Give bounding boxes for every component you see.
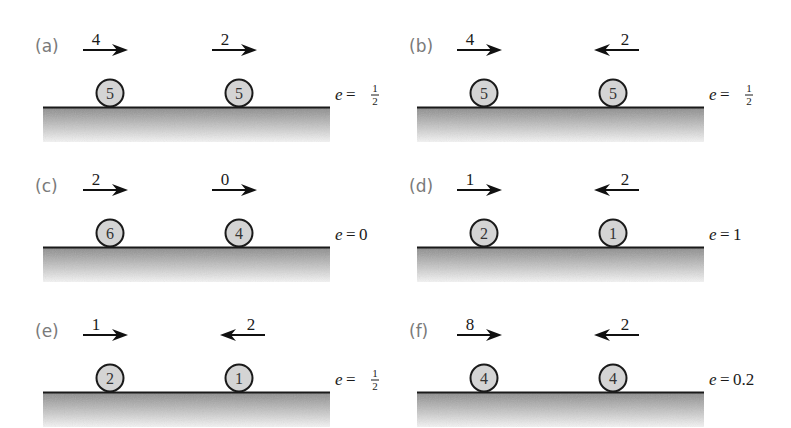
sphere: 6 [97,220,124,247]
panel-b: (b)5452e = 12 [409,30,753,142]
restitution-value: 0.2 [733,370,754,389]
restitution-denominator: 2 [372,95,378,107]
restitution-value: 0 [359,225,368,244]
arrow-right-icon [83,184,128,196]
sphere: 4 [226,220,253,247]
sphere-mass: 5 [609,85,617,102]
sphere: 2 [471,220,498,247]
restitution-coefficient: e = 12 [709,82,753,107]
panel-a: (a)5452e = 12 [35,30,379,142]
sphere-speed: 2 [621,315,630,334]
arrow-left-icon [594,44,639,56]
restitution-denominator: 2 [372,380,378,392]
ground-surface [417,107,704,142]
restitution-value: 1 [733,225,742,244]
panel-label: (d) [409,176,433,196]
sphere-speed: 2 [247,315,256,334]
sphere-mass: 1 [609,225,617,242]
ground-surface [43,107,330,142]
restitution-coefficient: e = 12 [335,367,379,392]
sphere: 5 [471,80,498,107]
sphere-speed: 0 [221,170,230,189]
sphere: 1 [600,220,627,247]
arrow-right-icon [83,44,128,56]
sphere-speed: 4 [466,30,475,49]
sphere: 5 [600,80,627,107]
sphere-speed: 1 [92,315,101,334]
collision-diagram: (a)5452e = 12(b)5452e = 12(c)6240e = 0(d… [0,0,791,428]
svg-text:e =: e = [335,85,359,104]
ground-surface [417,392,704,427]
arrow-right-icon [83,329,128,341]
svg-text:e = 1: e = 1 [709,225,741,244]
panel-label: (c) [35,176,58,196]
sphere-speed: 4 [92,30,101,49]
sphere: 4 [600,365,627,392]
sphere: 2 [97,365,124,392]
restitution-denominator: 2 [746,95,752,107]
panel-label: (b) [409,36,433,56]
panel-e: (e)2112e = 12 [35,315,379,427]
sphere-speed: 2 [621,30,630,49]
sphere-mass: 5 [235,85,243,102]
sphere-speed: 1 [466,170,475,189]
sphere: 5 [97,80,124,107]
sphere-mass: 1 [235,370,243,387]
sphere-speed: 2 [221,30,230,49]
arrow-left-icon [594,329,639,341]
sphere-mass: 5 [480,85,488,102]
sphere-mass: 6 [106,225,114,242]
ground-surface [43,392,330,427]
sphere: 5 [226,80,253,107]
ground-surface [417,247,704,282]
panel-f: (f)4842e = 0.2 [409,315,754,427]
restitution-numerator: 1 [746,82,752,94]
restitution-coefficient: e = 12 [335,82,379,107]
arrow-right-icon [212,44,257,56]
ground-surface [43,247,330,282]
sphere: 4 [471,365,498,392]
sphere-speed: 2 [621,170,630,189]
restitution-coefficient: e = 0 [335,225,367,244]
sphere-mass: 4 [235,225,243,242]
panel-c: (c)6240e = 0 [35,170,367,282]
arrow-left-icon [594,184,639,196]
restitution-coefficient: e = 0.2 [709,370,754,389]
sphere-mass: 4 [480,370,488,387]
sphere: 1 [226,365,253,392]
arrow-right-icon [457,329,502,341]
arrow-right-icon [457,44,502,56]
sphere-mass: 4 [609,370,617,387]
arrow-left-icon [220,329,265,341]
panel-label: (a) [35,36,59,56]
panel-label: (e) [35,321,59,341]
arrow-right-icon [457,184,502,196]
restitution-numerator: 1 [372,82,378,94]
restitution-coefficient: e = 1 [709,225,741,244]
sphere-mass: 2 [106,370,114,387]
panel-label: (f) [409,321,428,341]
sphere-mass: 2 [480,225,488,242]
sphere-speed: 2 [92,170,101,189]
panel-d: (d)2112e = 1 [409,170,741,282]
svg-text:e =: e = [335,370,359,389]
svg-text:e = 0.2: e = 0.2 [709,370,754,389]
sphere-speed: 8 [466,315,475,334]
svg-text:e = 0: e = 0 [335,225,367,244]
sphere-mass: 5 [106,85,114,102]
svg-text:e =: e = [709,85,733,104]
restitution-numerator: 1 [372,367,378,379]
arrow-right-icon [212,184,257,196]
